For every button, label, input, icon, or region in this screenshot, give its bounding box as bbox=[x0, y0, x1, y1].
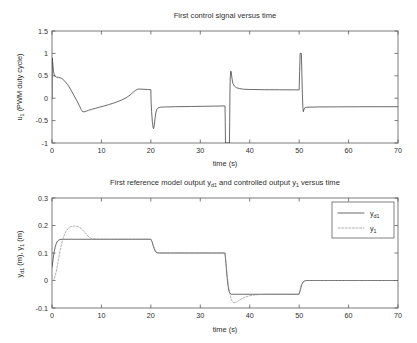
xaxis-tick-label: 20 bbox=[147, 146, 155, 155]
xaxis-tick-label: 30 bbox=[196, 146, 204, 155]
xaxis-tick-label: 10 bbox=[97, 311, 105, 320]
xaxis-label-reference-model-output: time (s) bbox=[213, 325, 238, 334]
yaxis-tick-label: 0.2 bbox=[38, 221, 48, 230]
legend-reference-model-output: yd1y1 bbox=[332, 202, 394, 238]
xaxis-tick-label: 40 bbox=[246, 311, 254, 320]
xaxis-tick-label: 10 bbox=[97, 146, 105, 155]
xaxis-tick-label: 50 bbox=[295, 146, 303, 155]
xaxis-tick-label: 60 bbox=[345, 146, 353, 155]
yaxis-label-control-signal: u1 (PWM duty cycle) bbox=[15, 53, 25, 120]
xaxis-tick-label: 0 bbox=[50, 311, 54, 320]
yaxis-tick-label: 0 bbox=[44, 276, 48, 285]
xaxis-tick-label: 60 bbox=[345, 311, 353, 320]
yaxis-tick-label: 0.1 bbox=[38, 249, 48, 258]
xaxis-tick-label: 70 bbox=[394, 311, 402, 320]
xaxis-tick-label: 40 bbox=[246, 146, 254, 155]
figure-svg: First control signal versus time 0102030… bbox=[0, 0, 417, 343]
yaxis-tick-label: -0.5 bbox=[36, 116, 48, 125]
xaxis-label-control-signal: time (s) bbox=[213, 159, 238, 168]
yaxis-tick-label: 0 bbox=[44, 94, 48, 103]
figure-background bbox=[0, 0, 417, 343]
yaxis-tick-label: 1.5 bbox=[38, 27, 48, 36]
xaxis-tick-label: 0 bbox=[50, 146, 54, 155]
figure-container: First control signal versus time 0102030… bbox=[0, 0, 417, 343]
yaxis-tick-label: 1 bbox=[44, 49, 48, 58]
xaxis-tick-label: 70 bbox=[394, 146, 402, 155]
yaxis-tick-label: 0.3 bbox=[38, 194, 48, 203]
yaxis-tick-label: -1 bbox=[42, 139, 48, 148]
xaxis-tick-label: 30 bbox=[196, 311, 204, 320]
chart-title-reference-model-output: First reference model output yd1 and con… bbox=[110, 178, 340, 188]
yaxis-tick-label: -0.1 bbox=[36, 304, 48, 313]
legend-box bbox=[332, 202, 394, 238]
chart-title-control-signal: First control signal versus time bbox=[174, 11, 277, 20]
svg-text:u1 (PWM duty cycle): u1 (PWM duty cycle) bbox=[15, 53, 25, 120]
xaxis-tick-label: 50 bbox=[295, 311, 303, 320]
yaxis-tick-label: 0.5 bbox=[38, 71, 48, 80]
xaxis-tick-label: 20 bbox=[147, 311, 155, 320]
